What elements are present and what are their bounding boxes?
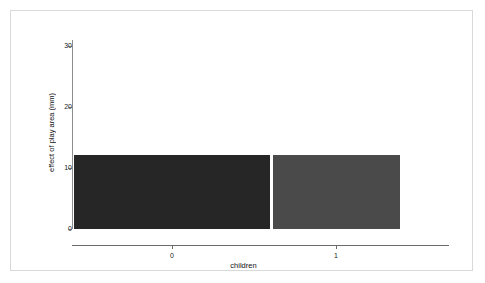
- x-tick-label-0: 0: [152, 251, 192, 260]
- chart-screenshot: 0 10 20 30 0 1 effect of play area (mm) …: [0, 0, 485, 283]
- x-axis-line: [72, 245, 449, 246]
- plot-area: 0 10 20 30 0 1 effect of play area (mm) …: [0, 0, 485, 283]
- x-tick-mark-0: [172, 245, 173, 249]
- bar-children-0[interactable]: [74, 155, 270, 229]
- x-tick-mark-1: [336, 245, 337, 249]
- x-tick-label-1: 1: [316, 251, 356, 260]
- bar-children-1[interactable]: [273, 155, 400, 229]
- y-tick-mark-0: [68, 229, 72, 230]
- x-axis-title: children: [72, 261, 415, 270]
- y-axis-title: effect of play area (mm): [47, 62, 61, 202]
- bars-layer: [0, 0, 485, 229]
